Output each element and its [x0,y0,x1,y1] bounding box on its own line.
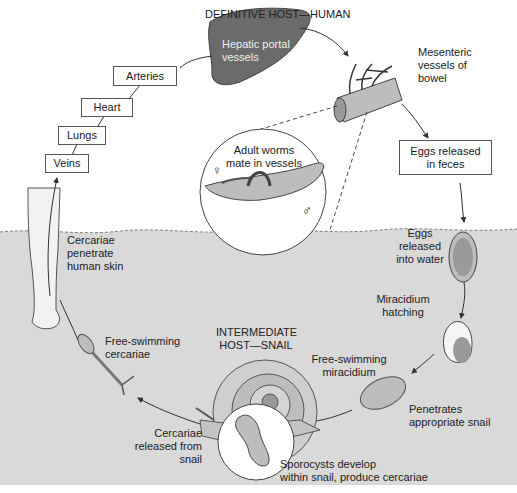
label-miracidium-hatching: Miracidium hatching [372,293,434,319]
label-adult-worms: Adult worms mate in vessels [226,144,302,170]
female-symbol: ♀ [212,164,222,177]
schistosoma-life-cycle-diagram: DEFINITIVE HOST—HUMAN Arteries Heart Lun… [0,0,517,493]
label-free-swimming-cercariae: Free-swimming cercariae [105,335,180,361]
label-hepatic-portal-vessels: Hepatic portal vessels [222,38,290,64]
box-lungs: Lungs [58,126,106,145]
intermediate-host-title: INTERMEDIATE HOST—SNAIL [216,326,296,352]
box-eggs-released-feces: Eggs released in feces [399,140,492,175]
label-cercariae-released: Cercariae released from snail [120,427,202,466]
definitive-host-title: DEFINITIVE HOST—HUMAN [205,8,350,21]
label-free-swimming-miracidium: Free-swimming miracidium [311,353,387,379]
label-mesenteric-vessels: Mesenteric vessels of bowel [418,46,472,85]
box-heart: Heart [81,98,133,117]
male-symbol: ♂ [302,204,312,217]
label-sporocysts: Sporocysts develop within snail, produce… [280,458,428,484]
label-eggs-released-water: Eggs released into water [395,227,445,266]
bowel-illustration [334,64,402,122]
box-veins: Veins [45,154,89,173]
label-penetrates-snail: Penetrates appropriate snail [409,403,490,429]
label-cercariae-penetrate-skin: Cercariae penetrate human skin [67,234,123,273]
box-arteries: Arteries [113,66,177,86]
